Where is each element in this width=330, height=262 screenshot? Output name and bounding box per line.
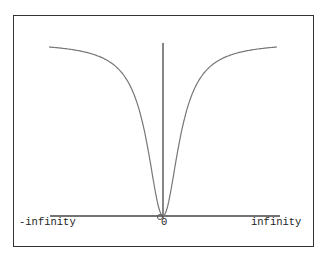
label-origin: 0 <box>161 216 167 228</box>
label-negative-infinity: -infinity <box>19 216 76 228</box>
label-positive-infinity: infinity <box>251 216 301 228</box>
